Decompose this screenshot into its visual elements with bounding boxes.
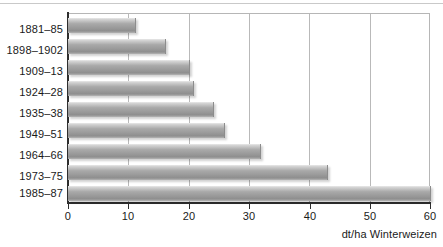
bar-row[interactable] xyxy=(68,18,430,33)
page-top-rule xyxy=(0,3,443,4)
x-tick-label-20: 20 xyxy=(183,210,196,222)
bar-1949-51[interactable] xyxy=(68,123,225,138)
x-tick-10 xyxy=(128,204,129,209)
x-axis-title: dt/ha Winterweizen xyxy=(342,228,437,240)
x-tick-50 xyxy=(370,204,371,209)
bar-1881-85[interactable] xyxy=(68,18,136,33)
category-label-1881-85: 1881–85 xyxy=(0,23,63,35)
chart-page: 0 10 20 30 40 50 60 dt/ha Winterweizen 1… xyxy=(0,0,443,247)
bar-row[interactable] xyxy=(68,39,430,54)
x-tick-label-50: 50 xyxy=(364,210,377,222)
bar-row[interactable] xyxy=(68,186,430,201)
x-tick-40 xyxy=(310,204,311,209)
bar-1973-75[interactable] xyxy=(68,165,328,180)
bar-1985-87[interactable] xyxy=(68,186,431,201)
category-label-1985-87: 1985–87 xyxy=(0,187,63,199)
category-label-1924-28: 1924–28 xyxy=(0,86,63,98)
x-tick-0 xyxy=(68,204,69,209)
bar-1924-28[interactable] xyxy=(68,81,194,96)
bar-row[interactable] xyxy=(68,60,430,75)
x-tick-label-60: 60 xyxy=(424,210,437,222)
bar-row[interactable] xyxy=(68,144,430,159)
x-tick-label-30: 30 xyxy=(243,210,256,222)
bar-1964-66[interactable] xyxy=(68,144,261,159)
category-label-1964-66: 1964–66 xyxy=(0,149,63,161)
bar-row[interactable] xyxy=(68,81,430,96)
x-tick-30 xyxy=(249,204,250,209)
bar-1909-13[interactable] xyxy=(68,60,190,75)
bar-row[interactable] xyxy=(68,102,430,117)
bar-row[interactable] xyxy=(68,165,430,180)
x-tick-label-10: 10 xyxy=(122,210,135,222)
category-label-1973-75: 1973–75 xyxy=(0,170,63,182)
x-tick-label-40: 40 xyxy=(304,210,317,222)
bar-1935-38[interactable] xyxy=(68,102,214,117)
bar-row[interactable] xyxy=(68,123,430,138)
category-label-1898-1902: 1898–1902 xyxy=(0,44,63,56)
category-label-1949-51: 1949–51 xyxy=(0,128,63,140)
category-label-1909-13: 1909–13 xyxy=(0,65,63,77)
x-tick-20 xyxy=(189,204,190,209)
bar-1898-1902[interactable] xyxy=(68,39,166,54)
x-tick-60 xyxy=(430,204,431,209)
category-label-1935-38: 1935–38 xyxy=(0,107,63,119)
x-tick-label-0: 0 xyxy=(65,210,71,222)
